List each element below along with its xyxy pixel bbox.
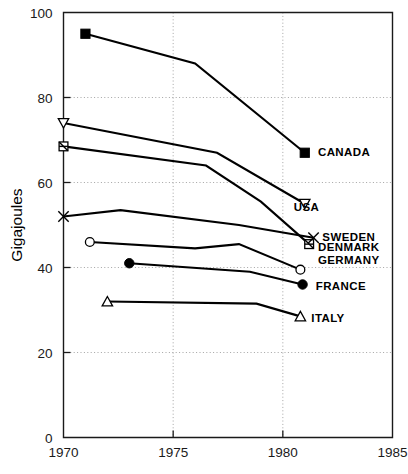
filled-square-marker (300, 148, 309, 157)
series-group: CANADAUSADENMARKSWEDENGERMANYFRANCEITALY (58, 29, 379, 323)
series-marker (85, 238, 94, 247)
series-label: FRANCE (316, 280, 366, 292)
filled-circle-marker (298, 280, 307, 289)
axis-border (64, 13, 393, 438)
y-axis-tick-label: 20 (37, 346, 52, 361)
y-axis-tick-label: 60 (37, 176, 52, 191)
series-polyline (85, 34, 304, 153)
y-axis-title: Gigajoules (8, 188, 25, 261)
series-marker (125, 259, 134, 268)
series-marker (296, 265, 305, 274)
y-axis-tick-label: 100 (30, 6, 53, 21)
series-sweden: SWEDEN (58, 210, 375, 243)
plot-frame (64, 13, 393, 438)
y-axis-tick-label: 0 (45, 431, 53, 446)
x-axis-tick-label: 1985 (377, 445, 407, 460)
series-marker (305, 240, 314, 249)
series-label: USA (294, 201, 319, 213)
filled-square-marker (81, 29, 90, 38)
x-axis-tick-label: 1980 (268, 445, 298, 460)
open-circle-marker (85, 238, 94, 247)
series-polyline (129, 263, 302, 284)
series-label: GERMANY (318, 254, 380, 266)
y-axis: 020406080100 (30, 6, 71, 446)
y-axis-tick-label: 40 (37, 261, 52, 276)
chart-figure: 0204060801001970197519801985GigajoulesCA… (0, 0, 408, 474)
x-axis-tick-label: 1970 (48, 445, 78, 460)
series-marker (81, 29, 90, 38)
series-polyline (90, 242, 301, 270)
x-axis-tick-label: 1975 (158, 445, 188, 460)
x-axis: 1970197519801985 (48, 431, 407, 460)
series-marker (300, 148, 309, 157)
series-italy: ITALY (102, 297, 344, 324)
gridlines (64, 13, 393, 438)
series-marker (298, 280, 307, 289)
series-label: SWEDEN (322, 231, 375, 243)
series-canada: CANADA (81, 29, 370, 158)
series-label: CANADA (318, 146, 370, 158)
filled-circle-marker (125, 259, 134, 268)
series-polyline (107, 302, 300, 317)
series-marker (59, 142, 68, 151)
open-circle-marker (296, 265, 305, 274)
series-label: DENMARK (318, 241, 380, 253)
y-axis-tick-label: 80 (37, 91, 52, 106)
series-polyline (64, 146, 310, 244)
line-chart: 0204060801001970197519801985GigajoulesCA… (0, 0, 408, 474)
series-label: ITALY (311, 312, 344, 324)
